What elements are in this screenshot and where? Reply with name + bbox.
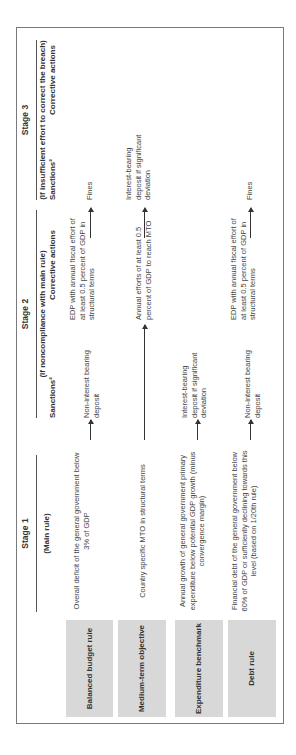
stage-1-underline	[36, 455, 37, 612]
balanced-budget-s3-sanction: Fines	[85, 140, 95, 200]
stage-2-corrective-header: Corrective actions	[48, 210, 58, 320]
stage-1-subtitle: (Main rule)	[42, 455, 52, 612]
arrow-right-icon	[250, 420, 251, 440]
row-label-expenditure-benchmark: Expenditure benchmark	[175, 620, 223, 717]
row-label-text: Medium-term objective	[137, 625, 147, 712]
balanced-budget-s2-sanction: Non-interest bearing deposit	[82, 348, 101, 418]
rotated-table: Stage 1 (Main rule) Stage 2 (If noncompl…	[16, 27, 285, 740]
debt-main-rule: Financial debt of the general government…	[230, 450, 259, 612]
row-label-text: Debt rule	[247, 651, 257, 686]
stage-3-underline	[36, 40, 37, 200]
balanced-budget-main-rule: Overall deficit of the general governmen…	[72, 450, 91, 612]
arrow-right-icon	[90, 208, 91, 238]
stage-2-subtitle: (If noncompliance with main rule)	[38, 210, 48, 418]
debt-s2-corrective: EDP with annual fiscal effort of at leas…	[229, 210, 258, 320]
arrow-right-icon	[90, 420, 91, 440]
stage-1-title: Stage 1	[20, 455, 30, 612]
mto-s3-sanction: Interest-bearing deposit if significant …	[124, 130, 153, 200]
debt-s2-sanction: Non-interest bearing deposit	[243, 348, 262, 418]
stage-3-corrective-header: Corrective actions	[48, 35, 58, 125]
stage-3-title: Stage 3	[20, 40, 30, 200]
arrow-right-icon	[250, 208, 251, 238]
mto-main-rule: Country specific MTO in structural terms	[138, 450, 148, 612]
expenditure-s2-sanction: Interest-bearing deposit if significant …	[180, 348, 209, 418]
expenditure-main-rule: Annual growth of general government prim…	[178, 450, 207, 612]
stage-3-sanctions-header: Sanctions²	[48, 130, 58, 200]
row-label-medium-term-objective: Medium-term objective	[118, 620, 166, 717]
row-label-balanced-budget-rule: Balanced budget rule	[66, 620, 113, 717]
arrow-right-icon	[197, 420, 198, 440]
debt-s3-sanction: Fines	[245, 140, 255, 200]
row-label-debt-rule: Debt rule	[228, 620, 276, 717]
balanced-budget-s2-corrective: EDP with annual fiscal effort of at leas…	[68, 210, 97, 320]
stage-2-underline	[36, 210, 37, 418]
arrow-right-icon	[144, 208, 145, 238]
stage-2-sanctions-header: Sanctions²	[48, 328, 58, 418]
row-label-text: Balanced budget rule	[85, 628, 95, 709]
row-label-text: Expenditure benchmark	[194, 623, 204, 714]
arrow-right-icon	[144, 325, 145, 440]
stage-2-title: Stage 2	[20, 210, 30, 418]
stage-3-subtitle: (If insufficient effort to correct the b…	[38, 30, 48, 210]
